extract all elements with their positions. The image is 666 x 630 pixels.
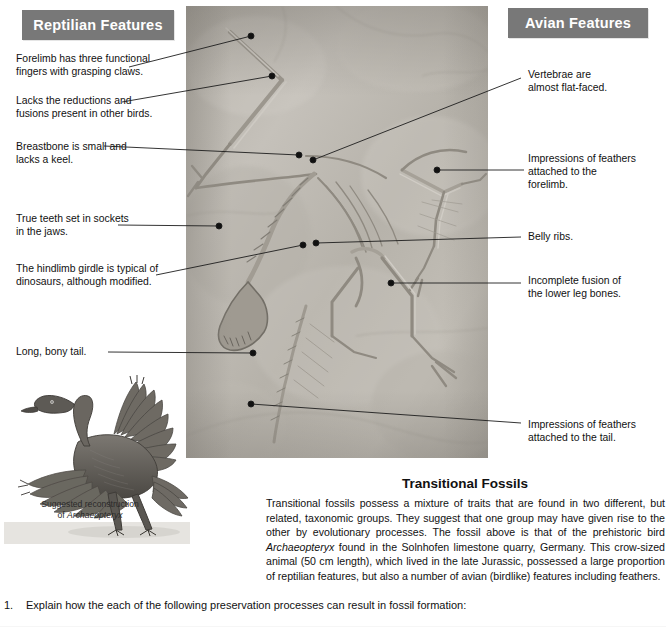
reconstruction-caption-line1: Suggested reconstruction	[41, 499, 138, 509]
fossil-photograph	[186, 6, 488, 458]
callout-feathers-forelimb: Impressions of feathers attached to the …	[528, 152, 660, 192]
callout-hindlimb-girdle: The hindlimb girdle is typical of dinosa…	[16, 262, 192, 288]
reconstruction-caption-species: Archaeopteryx	[67, 510, 122, 520]
callout-belly-ribs: Belly ribs.	[528, 230, 660, 243]
reptilian-features-banner: Reptilian Features	[22, 10, 174, 40]
scan-artifact-line	[0, 626, 666, 627]
avian-features-banner: Avian Features	[508, 8, 648, 38]
tf-part1: Transitional fossils possess a mixture o…	[266, 497, 665, 538]
callout-forelimb-fingers: Forelimb has three functional fingers wi…	[16, 52, 176, 78]
tf-species: Archaeopteryx	[266, 541, 334, 553]
transitional-fossils-heading: Transitional Fossils	[266, 476, 664, 491]
question-row: 1. Explain how the each of the following…	[4, 598, 644, 613]
fossil-slab-image	[186, 6, 488, 458]
callout-incomplete-fusion: Incomplete fusion of the lower leg bones…	[528, 274, 664, 300]
callout-bony-tail: Long, bony tail.	[16, 345, 156, 358]
reconstruction-caption-prefix: of	[58, 510, 68, 520]
callout-breastbone: Breastbone is small and lacks a keel.	[16, 140, 176, 166]
question-text: Explain how the each of the following pr…	[26, 598, 644, 613]
question-number: 1.	[4, 598, 26, 613]
reconstruction-caption: Suggested reconstruction of Archaeoptery…	[10, 499, 170, 521]
worksheet-page: Reptilian Features Avian Features Foreli…	[0, 0, 666, 630]
callout-true-teeth: True teeth set in sockets in the jaws.	[16, 212, 176, 238]
callout-lacks-reductions: Lacks the reductions and fusions present…	[16, 94, 184, 120]
callout-feathers-tail: Impressions of feathers attached to the …	[528, 418, 664, 444]
callout-vertebrae: Vertebrae are almost flat-faced.	[528, 68, 660, 94]
transitional-fossils-paragraph: Transitional fossils possess a mixture o…	[266, 496, 665, 584]
